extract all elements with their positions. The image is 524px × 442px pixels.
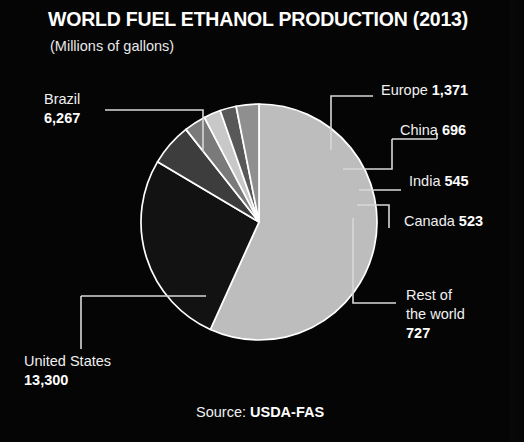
slice-label-india: India 545	[409, 172, 469, 191]
slice-label-brazil-name: Brazil	[44, 90, 80, 109]
slice-label-india-value: 545	[444, 173, 468, 189]
slice-label-canada-name: Canada	[404, 213, 459, 229]
source-value: USDA-FAS	[250, 404, 324, 420]
source-prefix: Source:	[196, 404, 250, 420]
slice-label-china-name: China	[400, 122, 442, 138]
slice-label-united-states-name: United States	[24, 352, 111, 371]
slice-label-brazil: Brazil 6,267	[44, 90, 80, 128]
slice-label-europe-value: 1,371	[432, 82, 468, 98]
slice-label-canada: Canada 523	[404, 212, 483, 231]
pie-slices	[141, 104, 377, 340]
slice-label-rest-value: 727	[406, 324, 465, 343]
source-note: Source: USDA-FAS	[196, 404, 324, 420]
slice-label-brazil-value: 6,267	[44, 109, 80, 128]
slice-label-china-value: 696	[442, 122, 466, 138]
slice-label-canada-value: 523	[459, 213, 483, 229]
slice-label-india-name: India	[409, 173, 444, 189]
slice-label-europe-name: Europe	[381, 82, 432, 98]
slice-label-rest-of-the-world: Rest of the world 727	[406, 286, 465, 343]
infographic-pie-chart: WORLD FUEL ETHANOL PRODUCTION (2013) (Mi…	[0, 0, 524, 442]
slice-label-united-states-value: 13,300	[24, 371, 111, 390]
slice-label-china: China 696	[400, 121, 466, 140]
slice-label-rest-line2: the world	[406, 305, 465, 324]
slice-label-rest-line1: Rest of	[406, 286, 465, 305]
slice-label-united-states: United States 13,300	[24, 352, 111, 390]
slice-label-europe: Europe 1,371	[381, 81, 468, 100]
